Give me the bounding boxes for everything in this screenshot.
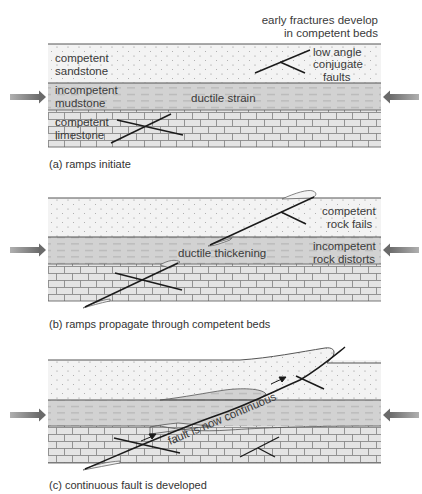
limestone-bed xyxy=(48,426,381,463)
incompetent-rock-distorts-1: incompetent xyxy=(313,240,376,252)
panel-b: ductile thickening competent rock fails … xyxy=(10,190,419,330)
limestone-bed xyxy=(48,264,381,301)
caption-b: (b) ramps propagate through competent be… xyxy=(49,318,271,330)
competent-rock-fails-1: competent xyxy=(322,205,377,217)
limestone-label-2: limestone xyxy=(55,129,104,141)
ductile-thickening-label: ductile thickening xyxy=(178,247,266,259)
fault-note-line2: conjugate xyxy=(313,58,363,70)
compression-arrow-left xyxy=(10,91,46,104)
panel-c: fault is now continuous (c) continuous f… xyxy=(10,347,419,491)
ductile-strain-label: ductile strain xyxy=(191,92,256,104)
thrust-ramp-diagram: early fractures develop in competent bed… xyxy=(0,0,422,494)
mudstone-label-2: mudstone xyxy=(55,97,106,109)
compression-arrow-right xyxy=(383,409,419,422)
compression-arrow-left xyxy=(10,244,46,257)
fault-note-line3: faults xyxy=(323,71,351,83)
compression-arrow-left xyxy=(10,409,46,422)
sandstone-label-1: competent xyxy=(55,52,110,64)
competent-rock-fails-2: rock fails xyxy=(327,218,373,230)
panel-a: early fractures develop in competent bed… xyxy=(10,14,419,170)
compression-arrow-right xyxy=(383,91,419,104)
early-fractures-note-line2: in competent beds xyxy=(284,27,378,39)
fault-note-line1: low angle xyxy=(313,46,362,58)
caption-a: (a) ramps initiate xyxy=(49,158,131,170)
early-fractures-note-line1: early fractures develop xyxy=(262,14,378,26)
sandstone-label-2: sandstone xyxy=(55,65,108,77)
compression-arrow-right xyxy=(383,244,419,257)
mudstone-label-1: incompetent xyxy=(55,84,118,96)
caption-c: (c) continuous fault is developed xyxy=(49,479,207,491)
limestone-label-1: competent xyxy=(55,116,110,128)
incompetent-rock-distorts-2: rock distorts xyxy=(313,253,375,265)
